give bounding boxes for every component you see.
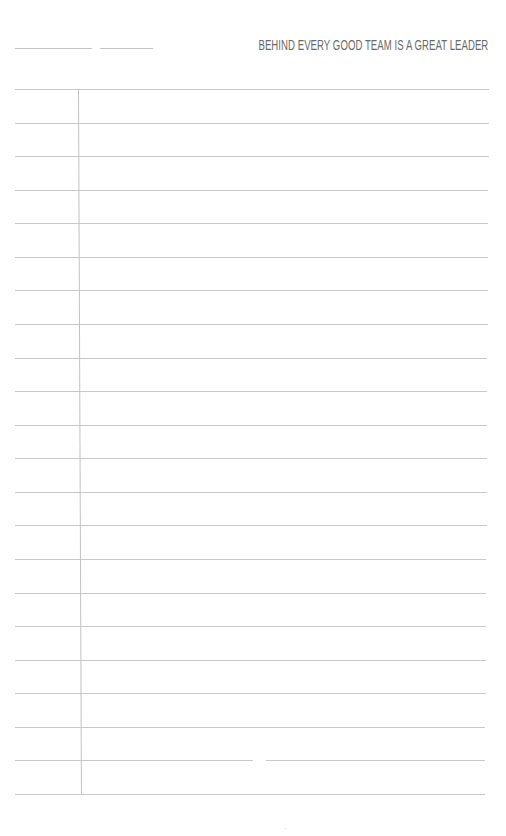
- ruled-line: [15, 593, 486, 594]
- ruled-line: [15, 525, 487, 526]
- line-gap: [253, 759, 266, 762]
- notebook-page: BEHIND EVERY GOOD TEAM IS A GREAT LEADER: [0, 0, 506, 836]
- ruled-line: [15, 190, 488, 191]
- ruled-line: [15, 223, 488, 224]
- ruled-line: [15, 324, 488, 325]
- ruled-line: [15, 458, 487, 459]
- paper-speck: [285, 828, 286, 829]
- margin-line: [78, 89, 82, 794]
- ruled-line: [15, 257, 488, 258]
- header-blank-field-right: [100, 48, 153, 49]
- ruled-line: [15, 727, 485, 728]
- ruled-line: [15, 358, 487, 359]
- ruled-line: [15, 391, 487, 392]
- ruled-line: [15, 760, 485, 761]
- ruled-line: [15, 425, 487, 426]
- ruled-line: [15, 290, 488, 291]
- ruled-line: [15, 794, 485, 795]
- ruled-line: [15, 123, 489, 124]
- ruled-line: [15, 156, 489, 157]
- ruled-line: [15, 89, 489, 90]
- ruled-line: [15, 626, 486, 627]
- ruled-line: [15, 492, 487, 493]
- ruled-line: [15, 693, 486, 694]
- header-quote: BEHIND EVERY GOOD TEAM IS A GREAT LEADER: [258, 36, 488, 54]
- ruled-line: [15, 559, 486, 560]
- ruled-line: [15, 660, 486, 661]
- header-blank-field-left: [15, 48, 92, 49]
